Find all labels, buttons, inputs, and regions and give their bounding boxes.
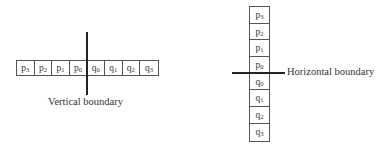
cell-subscript: 2 — [260, 30, 263, 37]
cell-subscript: 2 — [44, 66, 47, 73]
pixel-cell-q0: q0 — [250, 74, 269, 91]
cell-subscript: 3 — [260, 13, 263, 20]
pixel-cell-q1: q1 — [250, 90, 269, 107]
cell-subscript: 1 — [260, 96, 263, 103]
cell-subscript: 3 — [150, 66, 153, 73]
cell-subscript: 0 — [79, 66, 82, 73]
pixel-cell-p1: p1 — [52, 61, 70, 75]
cell-subscript: 1 — [260, 46, 263, 53]
cell-subscript: 1 — [61, 66, 64, 73]
cell-subscript: 0 — [96, 66, 99, 73]
pixel-cell-q1: q1 — [105, 61, 123, 75]
pixel-cell-q2: q2 — [250, 107, 269, 124]
pixel-cell-q3: q3 — [250, 124, 269, 141]
pixel-cell-q3: q3 — [140, 61, 158, 75]
pixel-cell-p3: p3 — [250, 7, 269, 24]
cell-subscript: 2 — [260, 113, 263, 120]
pixel-cell-p2: p2 — [250, 24, 269, 41]
pixel-cell-q0: q0 — [87, 61, 105, 75]
vertical-pixel-column: p3 p2 p1 p0 q0 q1 q2 q3 — [249, 6, 270, 142]
cell-subscript: 0 — [260, 63, 263, 70]
pixel-cell-q2: q2 — [123, 61, 141, 75]
horizontal-boundary-label: Horizontal boundary — [287, 66, 374, 77]
vertical-boundary-label: Vertical boundary — [48, 96, 123, 107]
pixel-cell-p2: p2 — [35, 61, 53, 75]
cell-subscript: 1 — [114, 66, 117, 73]
cell-subscript: 2 — [132, 66, 135, 73]
pixel-cell-p3: p3 — [17, 61, 35, 75]
horizontal-boundary-line — [232, 72, 285, 74]
pixel-cell-p1: p1 — [250, 40, 269, 57]
vertical-boundary-line — [86, 32, 88, 95]
cell-subscript: 0 — [260, 80, 263, 87]
pixel-cell-p0: p0 — [70, 61, 88, 75]
cell-subscript: 3 — [260, 130, 263, 137]
cell-subscript: 3 — [26, 66, 29, 73]
